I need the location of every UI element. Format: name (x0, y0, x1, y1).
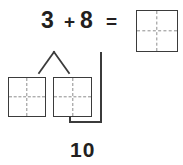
first-addend: 3 (41, 9, 54, 32)
answer-box-horizontal-divider (137, 30, 177, 31)
left-box-horizontal-divider (9, 96, 45, 97)
answer-box[interactable] (136, 10, 178, 52)
right-part-box[interactable] (53, 77, 92, 117)
left-part-box[interactable] (8, 77, 46, 117)
bracket-total-value: 10 (70, 139, 95, 160)
equals-operator: = (106, 12, 117, 31)
plus-operator: + (64, 12, 75, 31)
branch-line-left (39, 52, 54, 73)
math-worksheet-canvas: 3 + 8 = 10 (0, 0, 183, 165)
right-box-horizontal-divider (54, 96, 91, 97)
second-addend: 8 (80, 9, 93, 32)
branch-line-right (54, 52, 69, 73)
